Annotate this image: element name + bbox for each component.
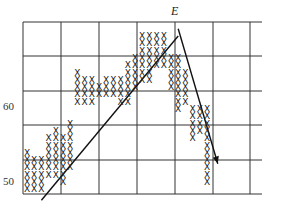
x-mark: X — [89, 75, 95, 84]
x-mark: X — [139, 32, 145, 41]
x-mark: X — [67, 119, 73, 128]
y-tick-60: 60 — [3, 100, 14, 112]
x-mark: X — [46, 134, 52, 143]
x-mark: X — [118, 75, 124, 84]
x-mark: X — [168, 53, 174, 62]
x-mark: X — [125, 61, 131, 70]
x-mark: X — [154, 32, 160, 41]
x-mark: X — [110, 75, 116, 84]
x-mark: X — [175, 53, 181, 62]
x-mark: X — [82, 75, 88, 84]
event-label-e: E — [171, 4, 178, 19]
x-mark: X — [31, 156, 37, 165]
x-mark: X — [190, 105, 196, 114]
x-mark: X — [182, 68, 188, 77]
x-mark: X — [197, 105, 203, 114]
x-mark: X — [38, 156, 44, 165]
x-mark: X — [204, 105, 210, 114]
x-mark: X — [24, 148, 30, 157]
y-tick-50: 50 — [3, 175, 14, 187]
x-mark: X — [103, 75, 109, 84]
x-mark: X — [161, 32, 167, 41]
x-mark: X — [60, 134, 66, 143]
x-mark: X — [53, 126, 59, 135]
x-mark: X — [96, 83, 102, 92]
x-mark: X — [146, 32, 152, 41]
x-mark: X — [74, 68, 80, 77]
x-mark: X — [132, 53, 138, 62]
